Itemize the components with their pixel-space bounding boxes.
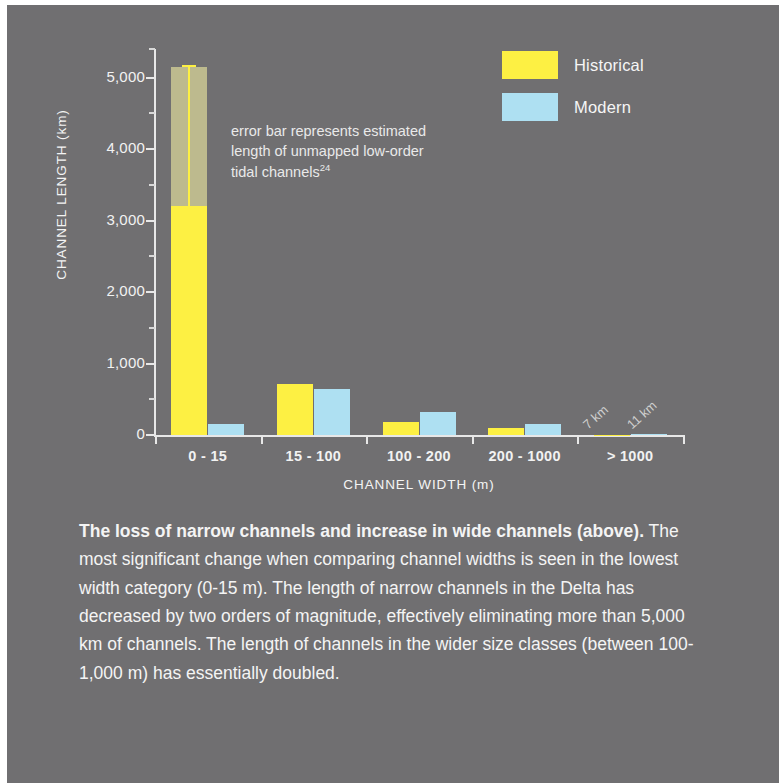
figure-panel: CHANNEL LENGTH (km) CHANNEL WIDTH (m) 01… — [7, 5, 779, 783]
y-tick-1000 — [146, 363, 155, 365]
error-bar-line — [188, 67, 190, 206]
y-tick-label-wrap: 4,000 — [65, 139, 145, 157]
y-tick-label-wrap: 5,000 — [65, 68, 145, 86]
legend-swatch-historical — [502, 51, 558, 79]
x-axis-title: CHANNEL WIDTH (m) — [155, 477, 683, 492]
y-tick-label: 2,000 — [75, 282, 145, 299]
x-tick-label-100-200: 100 - 200 — [366, 448, 472, 464]
bar-modern-200-1000 — [525, 424, 561, 435]
bar-modern-0-15 — [208, 424, 244, 435]
x-tick-label--1000: > 1000 — [577, 448, 683, 464]
legend-item-historical[interactable]: Historical — [502, 51, 644, 79]
y-tick-0 — [146, 434, 155, 436]
bar-modern--1000 — [631, 434, 667, 435]
x-tick-separator — [261, 435, 263, 444]
x-axis-line — [154, 435, 684, 437]
annotation-superscript: 24 — [320, 162, 331, 173]
bar-chart: CHANNEL LENGTH (km) CHANNEL WIDTH (m) 01… — [7, 5, 779, 505]
y-tick-label-wrap: 3,000 — [65, 211, 145, 229]
y-tick-3000 — [146, 220, 155, 222]
x-tick-separator — [683, 435, 685, 444]
caption-body: The most significant change when compari… — [79, 521, 693, 683]
legend-label-historical: Historical — [574, 56, 644, 75]
bar-modern-100-200 — [420, 412, 456, 435]
legend-label-modern: Modern — [574, 98, 631, 117]
x-tick-separator — [366, 435, 368, 444]
y-tick-label: 5,000 — [75, 68, 145, 85]
figure-caption: The loss of narrow channels and increase… — [79, 517, 703, 687]
annotation-line-1: error bar represents estimated — [231, 123, 426, 139]
y-tick-label: 1,000 — [75, 354, 145, 371]
x-tick-label-200-1000: 200 - 1000 — [472, 448, 578, 464]
bar-historical-15-100 — [277, 384, 313, 435]
bar-historical--1000 — [594, 435, 630, 436]
x-tick-label-15-100: 15 - 100 — [261, 448, 367, 464]
y-tick-5000 — [146, 77, 155, 79]
legend-item-modern[interactable]: Modern — [502, 93, 644, 121]
y-tick-2000 — [146, 291, 155, 293]
error-bar-annotation: error bar represents estimated length of… — [231, 121, 481, 182]
annotation-line-2: length of unmapped low-order — [231, 143, 424, 159]
x-tick-separator — [472, 435, 474, 444]
bar-historical-100-200 — [383, 422, 419, 435]
bar-historical-0-15 — [171, 206, 207, 435]
y-tick-label-wrap: 0 — [65, 425, 145, 443]
bar-modern-15-100 — [314, 389, 350, 435]
bar-historical-200-1000 — [488, 428, 524, 436]
y-tick-label-wrap: 1,000 — [65, 354, 145, 372]
y-tick-label: 3,000 — [75, 211, 145, 228]
chart-legend: HistoricalModern — [502, 51, 644, 135]
y-tick-label: 4,000 — [75, 139, 145, 156]
annotation-line-3: tidal channels — [231, 164, 320, 180]
caption-bold-lead: The loss of narrow channels and increase… — [79, 521, 644, 541]
y-tick-4000 — [146, 148, 155, 150]
x-tick-label-0-15: 0 - 15 — [155, 448, 261, 464]
x-tick-separator — [155, 435, 157, 444]
x-tick-separator — [577, 435, 579, 444]
y-tick-label: 0 — [75, 425, 145, 442]
y-tick-label-wrap: 2,000 — [65, 282, 145, 300]
error-bar-cap — [182, 65, 196, 67]
legend-swatch-modern — [502, 93, 558, 121]
